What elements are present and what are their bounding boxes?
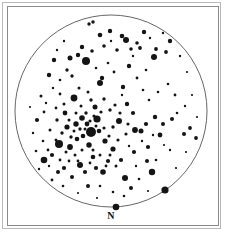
star-marker (119, 158, 123, 162)
star-marker (106, 159, 110, 163)
star-marker (170, 117, 174, 121)
star-marker (149, 37, 151, 39)
star-marker (52, 87, 54, 89)
star-marker (68, 160, 71, 163)
star-marker (60, 131, 63, 134)
compass-north-letter: N (107, 210, 114, 221)
star-marker (142, 89, 145, 92)
star-marker (153, 115, 157, 119)
star-marker (55, 139, 58, 142)
star-marker (110, 40, 112, 42)
stars-layer (29, 20, 198, 210)
star-marker (182, 132, 186, 136)
star-marker (132, 150, 136, 154)
star-marker (68, 56, 73, 61)
star-marker (97, 80, 103, 86)
star-marker (145, 69, 148, 72)
star-marker (152, 134, 154, 136)
star-marker (59, 93, 62, 96)
star-marker (120, 34, 125, 39)
star-marker (102, 126, 105, 129)
star-marker (80, 105, 83, 108)
star-marker (55, 118, 58, 121)
star-marker (67, 144, 73, 150)
star-marker (115, 165, 118, 168)
star-field-plot (0, 0, 226, 232)
star-marker (167, 83, 170, 86)
star-marker (161, 186, 168, 193)
star-marker (179, 55, 181, 57)
star-marker (100, 169, 106, 175)
star-marker (88, 119, 91, 122)
star-marker (55, 107, 58, 110)
star-marker (139, 129, 144, 134)
star-marker (40, 95, 43, 98)
star-marker (113, 103, 116, 106)
star-marker (155, 159, 158, 162)
star-marker (109, 154, 112, 157)
star-marker (71, 95, 78, 102)
compass-north-label: N (0, 210, 226, 221)
star-marker (110, 146, 115, 151)
star-marker (191, 94, 193, 96)
star-marker (112, 191, 115, 194)
star-marker (107, 62, 110, 65)
star-marker (45, 102, 47, 104)
star-marker (169, 149, 171, 151)
star-marker (51, 179, 54, 182)
star-marker (148, 99, 151, 102)
star-marker (29, 106, 31, 108)
star-marker (86, 142, 91, 147)
star-marker (116, 118, 122, 124)
star-marker (48, 165, 50, 167)
star-marker (74, 154, 77, 157)
star-marker (64, 124, 69, 129)
star-marker (154, 47, 158, 51)
star-marker (89, 98, 92, 101)
star-marker (32, 132, 34, 134)
star-marker (87, 22, 90, 25)
star-marker (77, 162, 83, 168)
star-marker (123, 37, 129, 43)
star-marker (135, 41, 139, 45)
star-marker (124, 132, 127, 135)
star-marker (113, 71, 116, 74)
star-marker (63, 111, 68, 116)
star-marker (108, 108, 111, 111)
star-marker (175, 167, 177, 169)
star-marker (105, 165, 108, 168)
star-marker (63, 103, 66, 106)
star-marker (63, 40, 65, 42)
star-marker (56, 170, 60, 174)
star-marker (116, 138, 119, 141)
star-marker (196, 116, 198, 118)
star-marker (142, 30, 146, 34)
star-marker (91, 155, 96, 160)
star-marker (144, 122, 148, 126)
star-marker (79, 115, 85, 121)
star-marker (145, 159, 149, 163)
star-marker (76, 53, 80, 57)
star-marker (132, 127, 138, 133)
star-marker (102, 97, 105, 100)
star-marker (90, 49, 94, 53)
star-marker (82, 57, 90, 65)
star-marker (38, 168, 40, 170)
star-marker (49, 129, 52, 132)
star-marker (97, 129, 102, 134)
star-marker (185, 151, 187, 153)
star-marker (149, 169, 155, 175)
star-marker (68, 119, 71, 122)
star-marker (127, 64, 131, 68)
star-marker (99, 185, 102, 188)
star-marker (115, 48, 119, 52)
star-marker (59, 79, 62, 82)
star-marker (81, 149, 84, 152)
star-marker (91, 20, 94, 23)
star-marker (42, 140, 45, 143)
star-marker (125, 102, 129, 106)
star-marker (95, 67, 98, 70)
star-marker (69, 135, 72, 138)
star-marker (93, 105, 98, 110)
star-marker (86, 127, 96, 137)
